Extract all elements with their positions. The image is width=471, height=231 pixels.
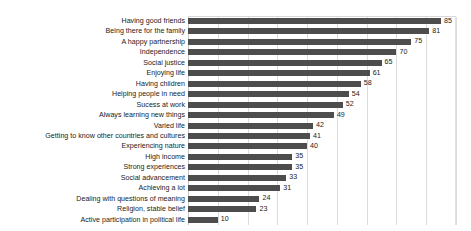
bar-value-label: 65 bbox=[385, 58, 393, 68]
bar-value-label: 70 bbox=[399, 48, 407, 58]
bar bbox=[188, 175, 286, 181]
category-label: A happy partnership bbox=[122, 37, 185, 47]
category-label: Dealing with questions of meaning bbox=[76, 194, 185, 204]
category-label: Varied life bbox=[154, 121, 185, 131]
bar bbox=[188, 112, 334, 118]
bar-value-label: 31 bbox=[283, 184, 291, 194]
bar-value-label: 23 bbox=[259, 205, 267, 215]
bar-value-label: 81 bbox=[432, 27, 440, 37]
category-label: Independence bbox=[140, 47, 185, 57]
bar bbox=[188, 164, 292, 170]
category-label: Being there for the family bbox=[106, 26, 185, 36]
bar bbox=[188, 206, 256, 212]
bar-row: Active participation in political life10 bbox=[0, 215, 471, 225]
bar bbox=[188, 91, 349, 97]
bar-row: A happy partnership75 bbox=[0, 37, 471, 47]
bar-row: Helping people in need54 bbox=[0, 89, 471, 99]
bar-row: Sucess at work52 bbox=[0, 100, 471, 110]
bar-row: Independence70 bbox=[0, 47, 471, 57]
category-label: Helping people in need bbox=[112, 89, 185, 99]
category-label: Social advancement bbox=[121, 173, 185, 183]
category-label: Active participation in political life bbox=[81, 215, 185, 225]
bar-row: Varied life42 bbox=[0, 121, 471, 131]
category-label: Religion, stable belief bbox=[117, 204, 185, 214]
bar-value-label: 49 bbox=[337, 111, 345, 121]
bar-value-label: 54 bbox=[352, 90, 360, 100]
bar-row: Religion, stable belief23 bbox=[0, 204, 471, 214]
bar-row: Enjoying life61 bbox=[0, 68, 471, 78]
bar-value-label: 24 bbox=[262, 194, 270, 204]
bar bbox=[188, 154, 292, 160]
bar-row: Being there for the family81 bbox=[0, 26, 471, 36]
bar bbox=[188, 81, 361, 87]
bar-value-label: 35 bbox=[295, 152, 303, 162]
bar-row: Getting to know other countries and cult… bbox=[0, 131, 471, 141]
bar-value-label: 58 bbox=[364, 79, 372, 89]
bar bbox=[188, 143, 307, 149]
category-label: Enjoying life bbox=[146, 68, 185, 78]
bar-row: Having children58 bbox=[0, 79, 471, 89]
bar bbox=[188, 217, 218, 223]
category-label: Having children bbox=[136, 79, 185, 89]
bar bbox=[188, 39, 411, 45]
bar-row: Social advancement33 bbox=[0, 173, 471, 183]
bar-row: Experiencing nature40 bbox=[0, 141, 471, 151]
bar-value-label: 41 bbox=[313, 132, 321, 142]
bar-value-label: 52 bbox=[346, 100, 354, 110]
bar bbox=[188, 102, 343, 108]
bar-row: Strong experiences35 bbox=[0, 162, 471, 172]
bar-chart: Having good friends85Being there for the… bbox=[0, 0, 471, 231]
category-label: Always learning new things bbox=[99, 110, 185, 120]
bar bbox=[188, 28, 429, 34]
bar bbox=[188, 49, 396, 55]
category-label: Getting to know other countries and cult… bbox=[45, 131, 185, 141]
bar-row: Having good friends85 bbox=[0, 16, 471, 26]
bar-value-label: 40 bbox=[310, 142, 318, 152]
bar bbox=[188, 70, 370, 76]
bar bbox=[188, 123, 313, 129]
bar-row: Achieving a lot31 bbox=[0, 183, 471, 193]
bar bbox=[188, 133, 310, 139]
category-label: Social justice bbox=[143, 58, 185, 68]
category-label: Having good friends bbox=[122, 16, 185, 26]
bar bbox=[188, 196, 259, 202]
category-label: Strong experiences bbox=[124, 162, 185, 172]
category-label: Experiencing nature bbox=[122, 141, 185, 151]
bar-rows-container: Having good friends85Being there for the… bbox=[0, 16, 471, 225]
category-label: High income bbox=[145, 152, 185, 162]
bar-value-label: 75 bbox=[414, 37, 422, 47]
bar-row: Social justice65 bbox=[0, 58, 471, 68]
category-label: Achieving a lot bbox=[139, 183, 185, 193]
bar-value-label: 35 bbox=[295, 163, 303, 173]
bar bbox=[188, 60, 382, 66]
category-label: Sucess at work bbox=[137, 100, 185, 110]
bar bbox=[188, 18, 441, 24]
bar-value-label: 10 bbox=[221, 215, 229, 225]
bar-row: High income35 bbox=[0, 152, 471, 162]
bar-row: Always learning new things49 bbox=[0, 110, 471, 120]
bar bbox=[188, 185, 280, 191]
bar-row: Dealing with questions of meaning24 bbox=[0, 194, 471, 204]
